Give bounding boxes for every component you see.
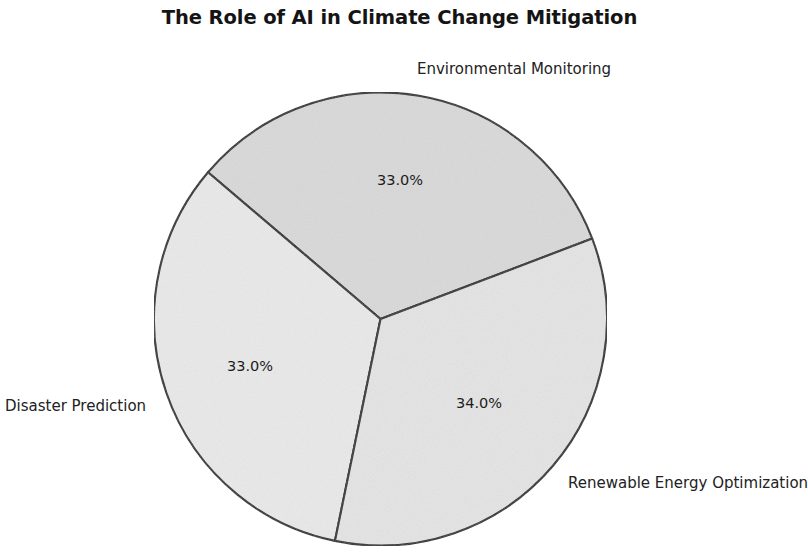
slice-percentage-renewable-energy-optimization: 34.0% [456,395,502,411]
slice-label-renewable-energy-optimization: Renewable Energy Optimization [568,474,808,492]
pie-slices-group [154,93,607,546]
slice-percentage-environmental-monitoring: 33.0% [377,172,423,188]
slice-label-disaster-prediction: Disaster Prediction [5,397,146,415]
slice-label-environmental-monitoring: Environmental Monitoring [417,60,611,78]
slice-percentage-disaster-prediction: 33.0% [227,358,273,374]
